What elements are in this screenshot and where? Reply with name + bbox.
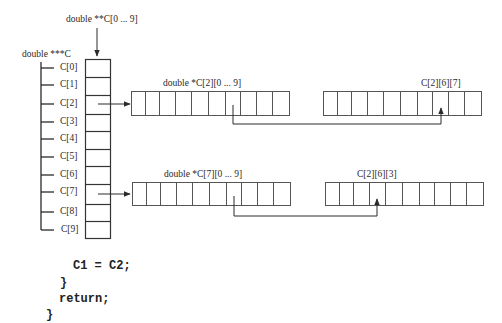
index-label: C[4] — [60, 134, 77, 144]
diagram-canvas — [0, 0, 502, 323]
index-label: C[5] — [60, 152, 77, 162]
row2-array — [132, 92, 290, 116]
code-line: } — [46, 309, 53, 321]
row7-array — [133, 183, 291, 206]
target-bottom-label: C[2][6][3] — [357, 170, 397, 180]
target-top-label: C[2][6][7] — [421, 79, 461, 89]
index-bracket — [41, 62, 54, 230]
pointer-array — [86, 60, 111, 239]
target-array-bottom — [326, 183, 484, 206]
index-label: C[1] — [60, 80, 77, 90]
row7-array-label: double *C[7][0 ... 9] — [164, 170, 242, 180]
index-label: C[6] — [60, 170, 77, 180]
code-line: C1 = C2; — [73, 260, 131, 272]
index-label: C[7] — [60, 187, 77, 197]
row2-array-label: double *C[2][0 ... 9] — [163, 79, 241, 89]
target-array-top — [324, 92, 482, 116]
index-label: C[8] — [60, 207, 77, 217]
code-line: return; — [59, 293, 109, 305]
code-line: } — [60, 277, 67, 289]
index-label: C[3] — [60, 117, 77, 127]
index-label: C[2] — [60, 99, 77, 109]
triple-pointer-label: double ***C — [22, 50, 71, 60]
index-label: C[0] — [60, 63, 77, 73]
index-label: C[9] — [61, 225, 78, 235]
pointer-array-label: double **C[0 ... 9] — [66, 15, 138, 25]
